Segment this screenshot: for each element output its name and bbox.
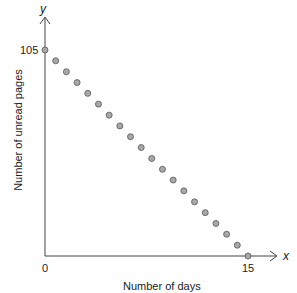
- scatter-chart: [0, 0, 297, 293]
- data-point: [149, 155, 155, 161]
- x-tick-15: 15: [242, 262, 254, 274]
- data-point: [117, 123, 123, 129]
- data-point: [95, 101, 101, 107]
- x-tick-0: 0: [42, 262, 48, 274]
- data-point: [63, 69, 69, 75]
- data-point: [224, 231, 230, 237]
- data-point: [213, 220, 219, 226]
- data-point: [53, 58, 59, 64]
- data-point: [202, 210, 208, 216]
- y-tick-105: 105: [20, 44, 38, 56]
- data-point: [170, 177, 176, 183]
- data-point: [245, 253, 251, 259]
- data-point: [138, 145, 144, 151]
- x-axis-symbol: x: [283, 249, 289, 263]
- data-point: [85, 90, 91, 96]
- x-axis-label: Number of days: [123, 280, 201, 292]
- data-point: [234, 242, 240, 248]
- data-point: [74, 80, 80, 86]
- y-axis-symbol: y: [40, 2, 46, 16]
- data-point: [159, 166, 165, 172]
- data-point: [192, 199, 198, 205]
- axes: [40, 17, 277, 261]
- data-point: [128, 134, 134, 140]
- data-points: [42, 47, 251, 259]
- data-point: [42, 47, 48, 53]
- y-axis-label: Number of unread pages: [12, 60, 24, 200]
- data-point: [181, 188, 187, 194]
- data-point: [106, 112, 112, 118]
